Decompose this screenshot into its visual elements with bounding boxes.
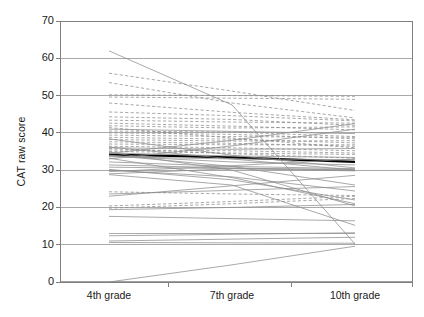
series-line (109, 175, 355, 196)
series-line (109, 128, 355, 148)
x-tick-label: 7th grade (172, 288, 292, 302)
plot-area (0, 0, 424, 317)
series-line (109, 126, 355, 128)
x-axis-tick-labels: 4th grade7th grade10th grade (0, 288, 424, 308)
x-tick-label: 10th grade (295, 288, 415, 302)
series-line (109, 51, 355, 244)
series-line (109, 103, 355, 120)
series-line (109, 97, 355, 99)
series-lines (109, 51, 355, 282)
series-line (109, 135, 355, 137)
series-line (109, 133, 355, 139)
series-line (109, 196, 355, 206)
series-line (109, 83, 355, 118)
series-line (109, 246, 355, 282)
series-line (109, 242, 355, 243)
series-line (109, 120, 355, 123)
series-line (109, 117, 355, 126)
series-line (109, 144, 355, 145)
series-line (109, 148, 355, 149)
series-line (109, 175, 355, 226)
series-line (109, 237, 355, 241)
series-line (109, 198, 355, 208)
series-line (109, 216, 355, 220)
chart-figure: CAT raw score 010203040506070 4th grade7… (0, 0, 424, 317)
series-line (109, 158, 355, 203)
x-tick-label: 4th grade (49, 288, 169, 302)
x-axis-ticks (168, 282, 412, 287)
